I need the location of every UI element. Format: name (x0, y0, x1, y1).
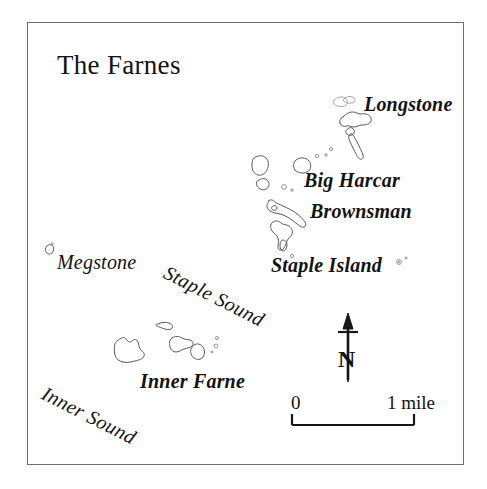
map-canvas: The Farnes Longstone Big Harcar Brownsma… (0, 0, 487, 489)
island-label-big-harcar: Big Harcar (304, 170, 400, 190)
island-label-longstone: Longstone (364, 94, 452, 114)
scale-bar-start-label: 0 (291, 393, 301, 412)
island-label-staple-island: Staple Island (271, 255, 382, 275)
island-label-megstone: Megstone (57, 252, 136, 272)
island-label-brownsman: Brownsman (310, 201, 412, 221)
north-indicator-letter: N (338, 347, 355, 371)
map-title: The Farnes (57, 52, 181, 79)
scale-bar-end-label: 1 mile (387, 393, 435, 412)
island-label-inner-farne: Inner Farne (140, 371, 245, 391)
